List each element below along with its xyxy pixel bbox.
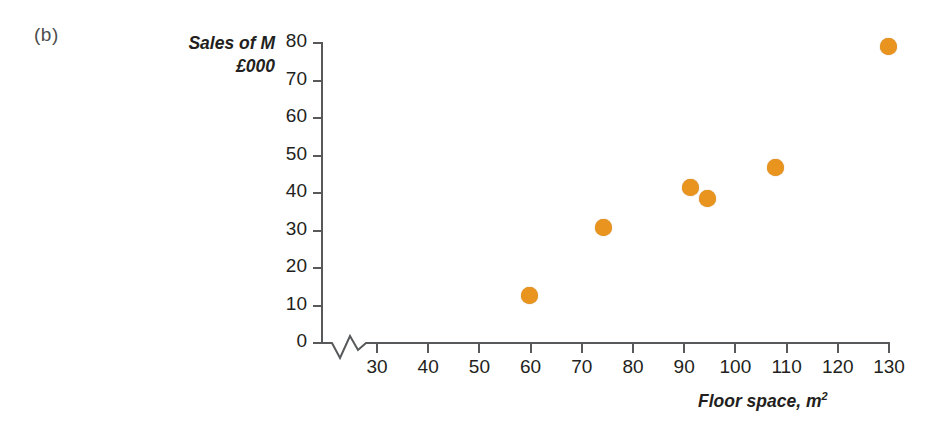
y-tick-mark <box>313 230 322 232</box>
y-tick-label: 20 <box>251 255 307 277</box>
x-axis-line <box>372 342 890 344</box>
y-tick-label: 70 <box>251 68 307 90</box>
x-tick-mark <box>683 344 685 353</box>
data-point <box>595 219 612 236</box>
panel-label: (b) <box>34 24 59 46</box>
x-tick-mark <box>632 344 634 353</box>
x-tick-mark <box>888 344 890 353</box>
data-point <box>521 287 538 304</box>
x-tick-mark <box>581 344 583 353</box>
y-tick-label: 30 <box>251 218 307 240</box>
x-tick-mark <box>427 344 429 353</box>
y-tick-mark <box>313 42 322 44</box>
data-point <box>767 159 784 176</box>
y-tick-mark <box>313 80 322 82</box>
y-tick-mark <box>313 267 322 269</box>
y-tick-label: 80 <box>251 30 307 52</box>
y-tick-mark <box>313 192 322 194</box>
y-tick-label: 40 <box>251 180 307 202</box>
figure-canvas: (b) Sales of M £000 Floor space, m2 0102… <box>0 0 933 435</box>
x-axis-label-text: Floor space, m <box>698 391 822 411</box>
y-tick-label: 10 <box>251 293 307 315</box>
y-tick-label: 60 <box>251 105 307 127</box>
x-tick-mark <box>376 344 378 353</box>
x-tick-mark <box>478 344 480 353</box>
y-tick-mark <box>313 155 322 157</box>
x-axis-label-exponent: 2 <box>822 390 828 402</box>
y-tick-mark <box>313 342 322 344</box>
data-point <box>699 190 716 207</box>
data-point <box>880 38 897 55</box>
x-tick-mark <box>837 344 839 353</box>
x-axis-label: Floor space, m2 <box>698 390 828 412</box>
x-tick-label: 130 <box>858 356 920 378</box>
y-tick-label: 50 <box>251 143 307 165</box>
x-tick-mark <box>734 344 736 353</box>
y-tick-mark <box>313 117 322 119</box>
data-point <box>682 179 699 196</box>
x-tick-mark <box>786 344 788 353</box>
y-tick-mark <box>313 305 322 307</box>
y-tick-label: 0 <box>251 330 307 352</box>
x-tick-mark <box>530 344 532 353</box>
